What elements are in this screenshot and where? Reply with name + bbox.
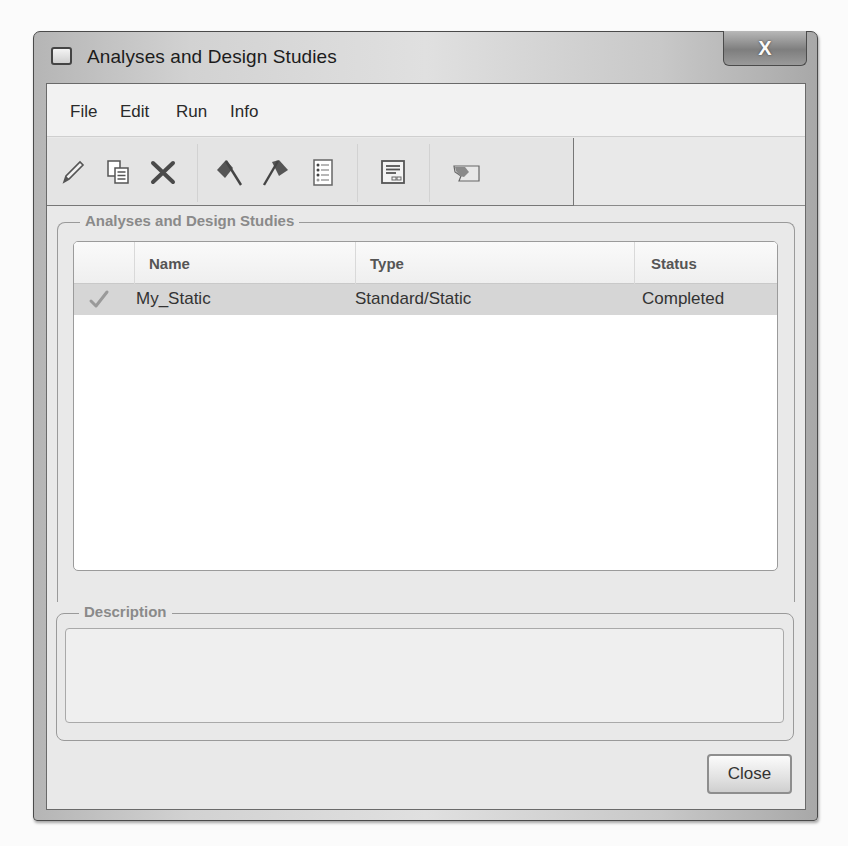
toolbar-separator [429, 144, 430, 202]
start-flag-icon [213, 156, 245, 188]
description-field[interactable] [65, 628, 784, 723]
checklist-icon [308, 157, 338, 187]
toolbar-separator [197, 144, 198, 202]
toolbar-separator [357, 144, 358, 202]
copy-button[interactable] [102, 156, 134, 188]
results-icon [451, 157, 483, 187]
analyses-group-label: Analyses and Design Studies [80, 212, 299, 229]
checkmark-icon [88, 288, 110, 310]
window-close-button[interactable]: X [723, 31, 807, 66]
close-icon: X [758, 38, 771, 58]
table-header: Name Type Status [74, 242, 777, 284]
menu-run[interactable]: Run [176, 102, 207, 122]
review-window-icon [378, 157, 408, 187]
title-bar[interactable]: Analyses and Design Studies X [34, 32, 817, 83]
window-title: Analyses and Design Studies [87, 46, 337, 68]
analyses-table: Name Type Status My_Static Standard/Stat… [73, 241, 778, 571]
delete-icon [148, 157, 178, 187]
menu-bar: File Edit Run Info [47, 84, 805, 137]
stop-flag-icon [259, 156, 291, 188]
menu-file[interactable]: File [70, 102, 97, 122]
table-row[interactable]: My_Static Standard/Static Completed [74, 284, 777, 315]
window-icon [51, 47, 72, 65]
row-name: My_Static [136, 284, 211, 315]
column-header-type[interactable]: Type [355, 242, 634, 284]
row-type: Standard/Static [355, 284, 471, 315]
row-status: Completed [642, 284, 724, 315]
close-button[interactable]: Close [707, 754, 792, 794]
delete-button[interactable] [147, 156, 179, 188]
dialog-client-area: File Edit Run Info [46, 83, 806, 810]
column-header-check[interactable] [74, 242, 134, 284]
column-header-name[interactable]: Name [134, 242, 355, 284]
column-header-status[interactable]: Status [634, 242, 778, 284]
menu-edit[interactable]: Edit [120, 102, 149, 122]
toolbar [47, 138, 574, 206]
review-button[interactable] [377, 156, 409, 188]
start-button[interactable] [213, 156, 245, 188]
edit-button[interactable] [57, 156, 89, 188]
toolbar-divider [574, 205, 805, 206]
results-button[interactable] [451, 156, 483, 188]
stop-button[interactable] [259, 156, 291, 188]
copy-icon [103, 157, 133, 187]
status-button[interactable] [307, 156, 339, 188]
description-group-label: Description [79, 603, 172, 620]
analyses-dialog: Analyses and Design Studies X File Edit … [33, 31, 818, 821]
menu-info[interactable]: Info [230, 102, 258, 122]
pencil-icon [58, 157, 88, 187]
